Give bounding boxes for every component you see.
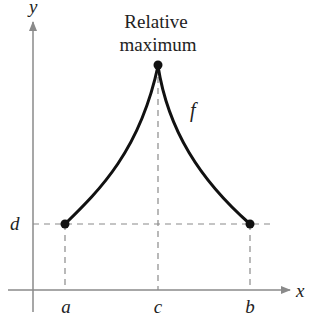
curve-f-right	[158, 66, 250, 224]
point-left-endpoint	[61, 220, 70, 229]
annotation-line-1: Relative	[124, 11, 187, 32]
tick-label-b: b	[245, 296, 255, 317]
tick-label-a: a	[61, 296, 71, 317]
tick-label-d: d	[10, 213, 20, 234]
point-right-endpoint	[246, 220, 255, 229]
tick-label-c: c	[154, 296, 163, 317]
curve-f-left	[65, 66, 158, 224]
annotation-line-2: maximum	[119, 34, 196, 55]
y-axis-label: y	[27, 0, 38, 17]
relative-maximum-diagram: Relative maximum f y x d a c b	[0, 0, 317, 334]
function-label-f: f	[190, 99, 198, 122]
x-axis-label: x	[295, 280, 305, 301]
point-relative-maximum	[154, 61, 163, 70]
